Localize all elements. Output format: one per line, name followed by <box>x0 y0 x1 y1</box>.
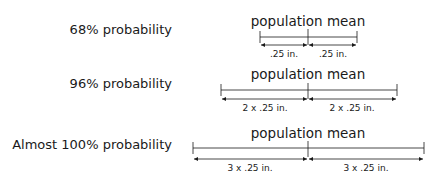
row2-range-bar <box>221 83 397 99</box>
row1-range-bar <box>260 29 357 45</box>
dimension-lines <box>0 0 435 180</box>
row3-range-bar <box>193 141 424 157</box>
